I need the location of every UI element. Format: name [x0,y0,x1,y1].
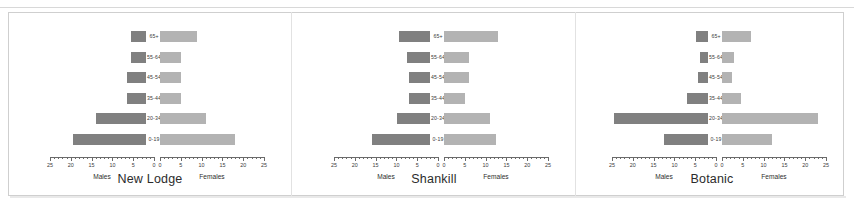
axis-tick-minor [629,157,630,159]
axis-tick-major [465,157,466,161]
axis-tick-major [716,157,717,161]
plot-area: 65+55-6445-5435-4420-340-190510152025Mal… [292,12,576,196]
axis-tick-minor [426,157,427,159]
bar-female [160,113,206,124]
bar-female [160,134,235,145]
axis-tick-minor [789,157,790,159]
male-half [18,133,146,146]
male-half [580,112,708,125]
axis-tick-minor [544,157,545,159]
bar-female [722,52,734,63]
axis-tick-major [133,157,134,161]
axis-tick-minor [768,157,769,159]
axis-tick-minor [210,157,211,159]
axis-tick-minor [734,157,735,159]
axis-tick-minor [809,157,810,159]
axis-tick-minor [658,157,659,159]
axis-tick-label: 15 [499,162,513,168]
axis-tick-minor [227,157,228,159]
pyramid-row: 65+ [8,30,292,43]
axis-tick-minor [751,157,752,159]
bar-female [160,93,181,104]
pyramid-row: 20-34 [570,112,854,125]
axis-tick-label: 25 [541,162,555,168]
male-axis: 0510152025Males [612,157,716,158]
axis-tick-label: 10 [757,162,771,168]
female-half [722,71,850,84]
pyramid-row: 35-44 [570,92,854,105]
axis-tick-minor [481,157,482,159]
bar-female [722,113,818,124]
female-axis: 0510152025Females [444,157,548,158]
axis-tick-minor [108,157,109,159]
male-half [18,71,146,84]
axis-tick-minor [616,157,617,159]
axis-tick-minor [730,157,731,159]
axis-tick-minor [129,157,130,159]
panel-title: New Lodge [8,172,292,186]
female-half [444,92,572,105]
male-half [580,30,708,43]
axis-tick-minor [772,157,773,159]
bar-female [444,31,498,42]
axis-tick-major [160,157,161,161]
axis-tick-minor [125,157,126,159]
axis-tick-minor [523,157,524,159]
axis-tick-label: 20 [64,162,78,168]
pyramid-panel: 65+55-6445-5435-4420-340-190510152025Mal… [570,12,854,196]
axis-tick-minor [759,157,760,159]
axis-tick-label: 5 [688,162,702,168]
axis-tick-major [444,157,445,161]
axis-tick-major [784,157,785,161]
axis-tick-label: 20 [798,162,812,168]
axis-tick-minor [338,157,339,159]
population-pyramid-figure: 65+55-6445-5435-4420-340-190510152025Mal… [0,0,854,205]
pyramid-row: 45-54 [8,71,292,84]
axis-tick-minor [776,157,777,159]
axis-tick-minor [351,157,352,159]
male-half [18,51,146,64]
panel-title: Botanic [570,172,854,186]
axis-tick-label: 10 [667,162,681,168]
axis-tick-minor [620,157,621,159]
pyramid-row: 45-54 [292,71,576,84]
axis-tick-major [396,157,397,161]
axis-tick-major [743,157,744,161]
pyramid-row: 0-19 [8,133,292,146]
axis-tick-minor [121,157,122,159]
axis-tick-minor [662,157,663,159]
axis-tick-label: 0 [153,162,167,168]
axis-tick-minor [247,157,248,159]
bar-female [722,72,732,83]
axis-tick-minor [239,157,240,159]
axis-tick-minor [624,157,625,159]
axis-tick-minor [146,157,147,159]
male-axis: 0510152025Males [334,157,438,158]
axis-tick-minor [363,157,364,159]
axis-tick-minor [54,157,55,159]
axis-tick-minor [150,157,151,159]
axis-tick-minor [142,157,143,159]
female-half [444,133,572,146]
top-rule [0,7,854,8]
figure-frame-shadow [10,196,846,198]
female-half [160,51,288,64]
axis-tick-major [506,157,507,161]
bar-female [444,52,469,63]
axis-tick-minor [494,157,495,159]
axis-tick-minor [193,157,194,159]
axis-tick-minor [797,157,798,159]
bar-female [722,31,751,42]
male-axis: 0510152025Males [50,157,154,158]
axis-tick-minor [531,157,532,159]
axis-tick-major [548,157,549,161]
axis-tick-minor [252,157,253,159]
bar-female [160,31,197,42]
female-half [160,112,288,125]
pyramid-row: 35-44 [292,92,576,105]
male-half [302,92,430,105]
axis-tick-label: 5 [736,162,750,168]
axis-tick-major [154,157,155,161]
axis-tick-minor [62,157,63,159]
axis-tick-minor [185,157,186,159]
